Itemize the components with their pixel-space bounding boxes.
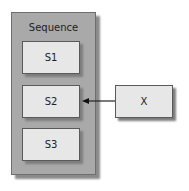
arrowhead-icon	[82, 98, 89, 104]
arrow-x-to-s2	[0, 0, 189, 191]
